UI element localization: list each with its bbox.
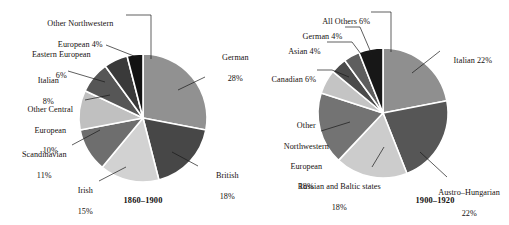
- label-canadian: Canadian 6%: [259, 65, 337, 96]
- label-irish: Irish 15%: [60, 176, 98, 225]
- immigration-origins-pie-figure: Other Northwestern European 4% Eastern E…: [0, 0, 509, 225]
- label-line: British: [216, 171, 239, 180]
- label-line: Eastern European: [32, 50, 91, 59]
- label-line: Scandinavian: [22, 150, 67, 159]
- caption-1860-1900: 1860–1900: [103, 196, 183, 205]
- label-line: Northwestern: [284, 142, 329, 151]
- label-line: European: [34, 126, 66, 135]
- label-line: 18%: [332, 203, 347, 212]
- label-line: 22%: [462, 209, 477, 218]
- pie-panel-1900-1920: All Others 6% German 4% Asian 4% Canadia…: [255, 0, 509, 225]
- label-line: Asian 4%: [288, 47, 320, 56]
- label-line: 11%: [37, 171, 52, 180]
- label-line: Italian 22%: [454, 56, 493, 65]
- label-asian: Asian 4%: [276, 37, 346, 68]
- label-line: 18%: [220, 192, 235, 201]
- pie-panel-1860-1900: Other Northwestern European 4% Eastern E…: [0, 0, 255, 225]
- label-russian-and-baltic-states: Russian and Baltic states 18%: [273, 172, 393, 223]
- label-british: British 18%: [200, 161, 242, 212]
- label-line: Canadian 6%: [272, 75, 316, 84]
- leader-other-northwestern-european: [126, 15, 151, 59]
- label-line: German: [222, 53, 249, 62]
- label-line: 28%: [228, 74, 243, 83]
- caption-1900-1920: 1900–1920: [395, 196, 475, 205]
- label-line: Other: [297, 121, 316, 130]
- label-line: European: [290, 162, 322, 171]
- label-german: German 28%: [207, 43, 251, 94]
- pie-slice: [143, 54, 207, 130]
- label-line: 15%: [78, 207, 93, 216]
- label-italian: Italian 22%: [441, 46, 507, 77]
- label-line: Other Northwestern: [47, 19, 113, 28]
- label-line: Other Central: [28, 105, 73, 114]
- label-line: Russian and Baltic states: [298, 182, 381, 191]
- label-line: Irish: [78, 186, 93, 195]
- label-line: Italian: [38, 76, 59, 85]
